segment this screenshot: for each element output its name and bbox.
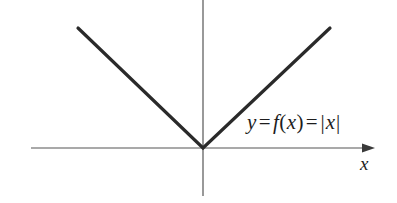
x-axis-label: x [360, 153, 368, 175]
equation-x-argument: x [287, 110, 297, 134]
equation-x-absolute: x [326, 110, 336, 134]
equation-y: y [247, 110, 257, 134]
equation-close-paren: ) [296, 110, 303, 134]
graph-canvas [0, 0, 397, 203]
equation-equals-second: = [304, 110, 320, 134]
x-axis-arrowhead-icon [362, 144, 375, 153]
equation-abs-bar-right: | [335, 110, 341, 134]
equation-equals-first: = [257, 110, 273, 134]
equation-open-paren: ( [279, 110, 286, 134]
function-equation-label: y=f(x)=|x| [247, 110, 341, 135]
absolute-value-function-figure: y=f(x)=|x| x [0, 0, 397, 203]
